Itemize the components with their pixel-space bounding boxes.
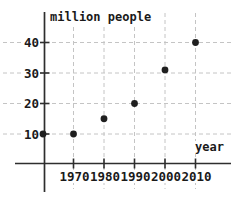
data-point: [131, 100, 138, 107]
y-tick-label: 20: [24, 96, 39, 111]
y-tick-label: 10: [24, 127, 39, 142]
plot-canvas: 1020304019701980199020002010: [0, 0, 237, 198]
scatter-chart: 1020304019701980199020002010 million peo…: [0, 0, 237, 198]
data-point: [162, 67, 169, 74]
data-point: [101, 115, 108, 122]
y-tick-label: 30: [24, 66, 39, 81]
x-tick-label: 2000: [151, 169, 181, 184]
x-tick-label: 1980: [90, 169, 120, 184]
x-tick-label: 1990: [120, 169, 150, 184]
y-axis-title: million people: [48, 11, 153, 24]
data-point: [40, 131, 47, 138]
x-axis-title: year: [193, 141, 226, 154]
y-tick-label: 40: [24, 35, 39, 50]
x-tick-label: 1970: [59, 169, 89, 184]
data-point: [192, 39, 199, 46]
data-point: [70, 131, 77, 138]
x-tick-label: 2010: [181, 169, 211, 184]
